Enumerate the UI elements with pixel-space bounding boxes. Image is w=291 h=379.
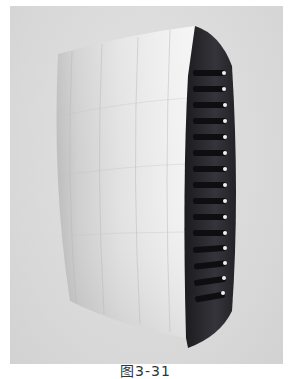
product-photo xyxy=(10,6,283,364)
tower-device-render xyxy=(10,6,283,364)
figure-caption: 图3-31 xyxy=(0,363,291,379)
